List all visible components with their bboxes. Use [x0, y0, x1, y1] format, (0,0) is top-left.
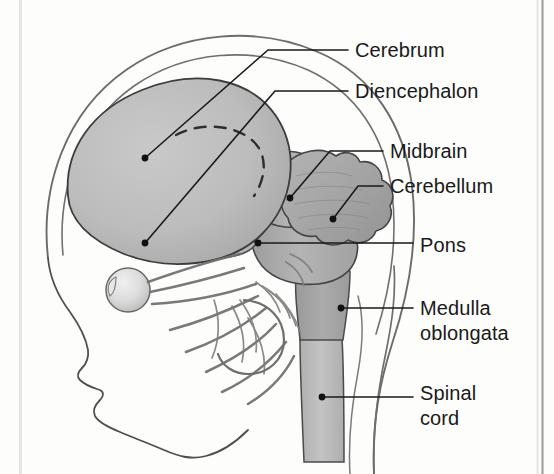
neck-front-outline — [349, 296, 362, 474]
label-line-2: oblongata — [420, 322, 509, 344]
label-line-1: Medulla — [420, 297, 491, 319]
label-midbrain: Midbrain — [390, 139, 468, 164]
label-pons: Pons — [420, 233, 466, 258]
cerebellum — [281, 150, 393, 244]
cerebrum — [68, 78, 291, 264]
label-line-1: Spinal — [420, 382, 476, 404]
label-cerebellum: Cerebellum — [390, 174, 493, 199]
label-line-2: cord — [420, 407, 459, 429]
cranial-nerves — [148, 254, 294, 404]
label-spinal-cord: Spinalcord — [420, 381, 476, 431]
diagram-page: Cerebrum Diencephalon Midbrain Cerebellu… — [0, 0, 554, 474]
label-medulla-oblongata: Medullaoblongata — [420, 296, 509, 346]
label-cerebrum: Cerebrum — [355, 38, 445, 63]
label-diencephalon: Diencephalon — [355, 79, 479, 104]
